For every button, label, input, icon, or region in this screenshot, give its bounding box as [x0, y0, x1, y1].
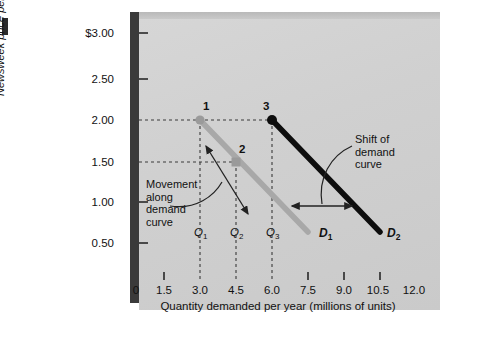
- data-point-3: [267, 115, 277, 125]
- plot-graphics: [0, 0, 486, 347]
- figure-canvas: Newsweek price per unit $3.00 2.50 2.00 …: [0, 0, 486, 347]
- y-axis-ticks: [139, 33, 148, 243]
- movement-arrow: [206, 146, 248, 214]
- movement-leader-line: [170, 182, 222, 207]
- data-point-1: [195, 115, 204, 124]
- dashed-guides: [139, 120, 272, 280]
- data-point-2: [232, 158, 241, 167]
